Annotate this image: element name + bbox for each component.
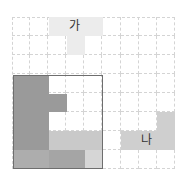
grid-cell <box>139 36 157 55</box>
grid-cell <box>12 17 30 36</box>
piece-a-label: 가 <box>69 20 80 32</box>
grid-cell <box>103 112 121 131</box>
grid-cell <box>103 150 121 169</box>
piece-a-stem <box>67 36 85 55</box>
grid-cell <box>139 17 157 36</box>
grid-cell <box>121 36 139 55</box>
grid-cell <box>139 74 157 93</box>
grid-cell <box>157 36 175 55</box>
grid-cell <box>103 55 121 74</box>
grid-cell <box>30 17 48 36</box>
grid-cell <box>103 17 121 36</box>
piece-b-label: 나 <box>141 134 152 146</box>
grid-cell <box>84 55 102 74</box>
grid-cell <box>121 93 139 112</box>
grid-cell <box>157 74 175 93</box>
grid-cell <box>121 112 139 131</box>
grid-cell <box>157 150 175 169</box>
grid-cell <box>103 36 121 55</box>
grid-cell <box>103 93 121 112</box>
square-outline <box>13 75 103 169</box>
grid-cell <box>139 93 157 112</box>
grid-cell <box>139 150 157 169</box>
grid-cell <box>66 55 84 74</box>
grid-cell <box>157 55 175 74</box>
grid-cell <box>157 17 175 36</box>
grid-cell <box>103 131 121 150</box>
grid-cell <box>157 93 175 112</box>
grid-cell <box>84 36 102 55</box>
grid-cell <box>121 150 139 169</box>
grid-cell <box>121 55 139 74</box>
grid-cell <box>48 36 66 55</box>
grid-cell <box>30 55 48 74</box>
grid-cell <box>12 36 30 55</box>
grid-cell <box>121 17 139 36</box>
grid-cell <box>121 74 139 93</box>
grid-cell <box>139 55 157 74</box>
grid-cell <box>30 36 48 55</box>
piece-b-stem <box>157 112 175 131</box>
grid-cell <box>139 112 157 131</box>
grid-cell <box>103 74 121 93</box>
grid-cell <box>48 55 66 74</box>
grid-cell <box>12 55 30 74</box>
